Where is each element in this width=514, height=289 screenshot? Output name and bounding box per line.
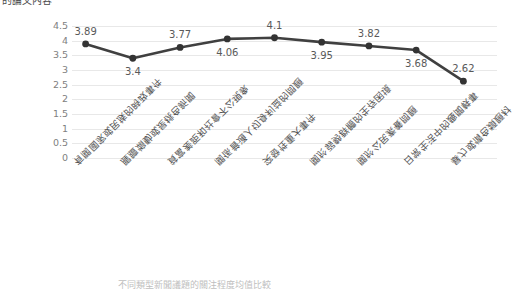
- data-point-marker: [271, 34, 278, 41]
- data-point-marker: [82, 40, 89, 47]
- data-point-marker: [129, 55, 136, 62]
- y-tick-label: 3.5: [53, 50, 68, 60]
- data-point-value-label: 3.95: [311, 50, 333, 61]
- y-tick-label: 4.5: [53, 21, 68, 31]
- data-point-value-label: 4.1: [267, 20, 283, 31]
- data-point-marker: [413, 47, 420, 54]
- data-point-marker: [177, 44, 184, 51]
- data-point-value-label: 3.82: [358, 28, 380, 39]
- y-axis: 4.543.532.521.510.50: [30, 26, 68, 158]
- data-point-marker: [366, 43, 373, 50]
- data-point-marker: [224, 36, 231, 43]
- y-tick-label: 3: [62, 65, 68, 75]
- y-tick-label: 4: [62, 36, 68, 46]
- y-tick-label: 0.5: [53, 138, 68, 148]
- y-tick-label: 1.5: [53, 109, 68, 119]
- data-point-marker: [318, 39, 325, 46]
- data-point-value-label: 3.68: [405, 58, 427, 69]
- y-tick-label: 2: [62, 94, 68, 104]
- data-point-value-label: 4.06: [216, 47, 238, 58]
- y-tick-label: 2.5: [53, 80, 68, 90]
- data-point-value-label: 3.77: [169, 29, 191, 40]
- x-axis-category-labels: 有關國家或民族的時政事件腥膻煽動或是桃色新聞貧富差距和社會不公現象關係普通人切身…: [0, 158, 497, 268]
- y-tick-label: 1: [62, 124, 68, 134]
- data-point-marker: [460, 78, 467, 85]
- data-point-value-label: 3.4: [125, 66, 141, 77]
- data-point-value-label: 3.89: [74, 26, 96, 37]
- data-point-value-label: 2.62: [452, 63, 474, 74]
- bottom-caption: 不同類型新聞議題的關注程度均值比較: [118, 280, 271, 289]
